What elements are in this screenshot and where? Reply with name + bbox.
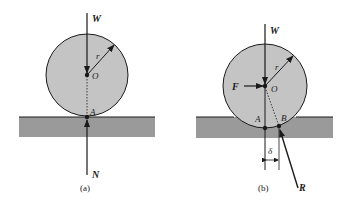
center-point-b — [263, 84, 267, 88]
label-r-a: r — [96, 51, 100, 61]
label-f: F — [231, 81, 239, 92]
caption-b: (b) — [258, 183, 269, 193]
label-delta: δ — [268, 146, 273, 156]
label-o-a: O — [92, 71, 99, 81]
label-a-a: A — [89, 107, 96, 117]
point-a-b — [263, 126, 267, 130]
contact-point-a — [85, 115, 89, 119]
reaction-arrow-r — [280, 130, 298, 188]
label-point-b: B — [281, 113, 287, 123]
caption-a: (a) — [80, 183, 90, 193]
center-point-a — [85, 73, 89, 77]
point-b-b — [277, 124, 281, 128]
label-r-force: R — [298, 182, 306, 193]
label-o-b: O — [271, 84, 278, 94]
label-w-b: W — [270, 25, 280, 36]
label-point-a-b: A — [254, 114, 261, 124]
rolling-resistance-diagram: W r O A N (a) W r — [0, 0, 350, 205]
panel-b: W r O F A B δ R (b) — [196, 24, 333, 193]
label-n: N — [91, 169, 100, 180]
label-w-a: W — [92, 13, 102, 24]
panel-a: W r O A N (a) — [19, 13, 155, 193]
label-r-b: r — [275, 62, 279, 72]
